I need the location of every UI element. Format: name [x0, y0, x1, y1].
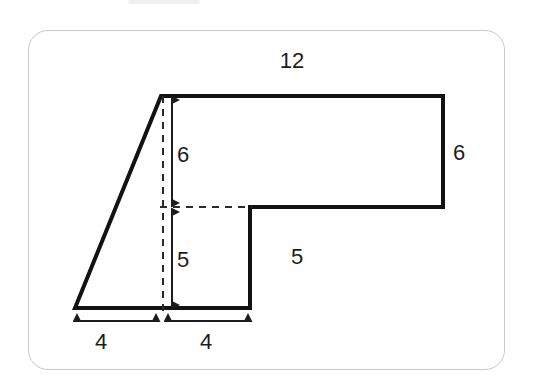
polygon-outline [75, 96, 443, 308]
geometry-figure [0, 0, 533, 386]
dimension-label-base-left: 4 [95, 331, 107, 353]
dimension-label-right-height: 6 [453, 142, 465, 164]
dimension-label-top-width: 12 [280, 50, 304, 72]
dimension-label-lower-height: 5 [177, 249, 189, 271]
dimension-label-upper-height: 6 [177, 144, 189, 166]
dimension-label-step-height: 5 [291, 246, 303, 268]
dimension-label-base-right: 4 [200, 331, 212, 353]
